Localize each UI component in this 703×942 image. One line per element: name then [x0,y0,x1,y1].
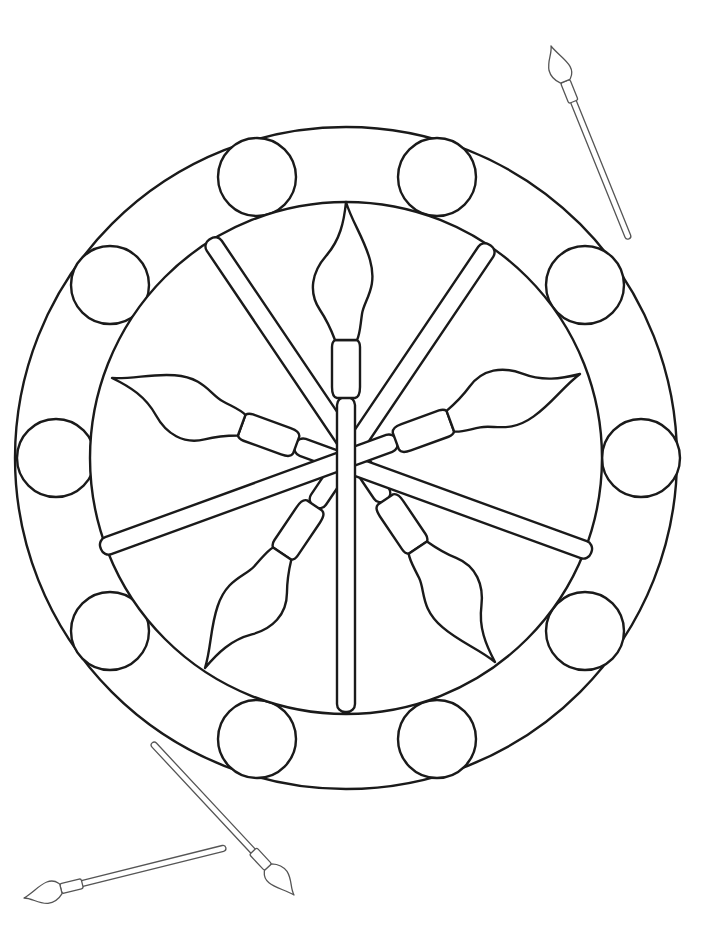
ring-circle [398,700,476,778]
ring-circle [218,700,296,778]
ring-circle [218,138,296,216]
ring-circle [602,419,680,497]
ring-circle [17,419,95,497]
small-paintbrush [22,838,229,909]
coloring-page [0,0,703,942]
ring-circle [398,138,476,216]
